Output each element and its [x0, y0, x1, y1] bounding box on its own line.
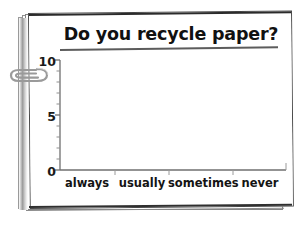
x-tick-label-always: always: [60, 176, 114, 190]
x-tick-label-usually: usually: [115, 176, 169, 190]
x-tick-label-sometimes: sometimes: [168, 176, 234, 190]
chart-axes: [36, 22, 288, 194]
x-tick-label-never: never: [235, 176, 285, 190]
y-tick-label-5: 5: [36, 109, 56, 124]
screenshot-root: Do you recycle paper?: [0, 0, 302, 229]
y-tick-label-10: 10: [36, 54, 56, 69]
x-category-ticks: [115, 163, 286, 175]
bar-chart: Do you recycle paper?: [36, 22, 288, 194]
paper-stack-spine: [19, 18, 28, 210]
y-tick-label-0: 0: [36, 164, 56, 179]
